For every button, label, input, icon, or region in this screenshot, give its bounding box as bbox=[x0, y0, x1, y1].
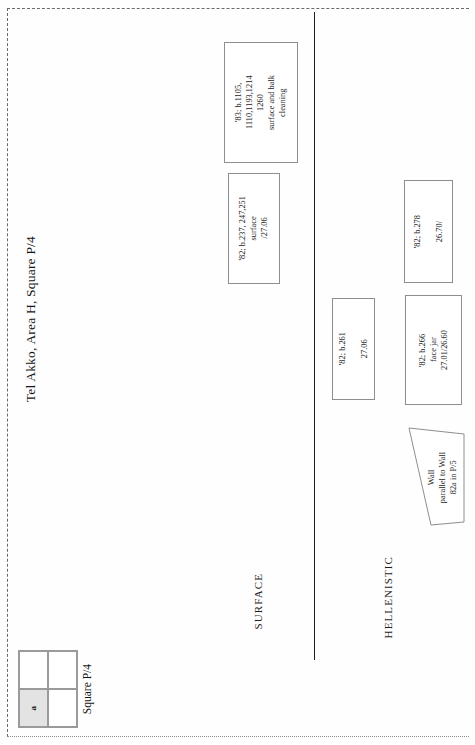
legend-cell-bottom-left[interactable]: a bbox=[19, 689, 48, 727]
locus-box-b1105[interactable]: '83; b.1105, 1110,1193,1214 1260 surface… bbox=[224, 42, 298, 163]
page-title: Tel Akko, Area H, Square P/4 bbox=[22, 236, 40, 406]
legend-cell-top-left[interactable] bbox=[19, 651, 48, 689]
legend-square-key: a Square P/4 bbox=[18, 650, 78, 728]
wall-shape-82a[interactable]: Wall parallel to Wall 82a in P/5 bbox=[401, 424, 465, 529]
legend-cell-bottom-right[interactable] bbox=[48, 689, 77, 727]
locus-box-b237[interactable]: '82; b.237, 247,251 surface /27.06 bbox=[228, 173, 280, 284]
phase-label-surface: SURFACE bbox=[251, 573, 266, 631]
page-edge-left bbox=[7, 8, 8, 737]
page-edge-bottom bbox=[7, 736, 469, 737]
legend-cell-top-right[interactable] bbox=[48, 651, 77, 689]
phase-label-hellenistic: HELLENISTIC bbox=[381, 556, 396, 640]
locus-box-b261[interactable]: '82; b.261 27.06 bbox=[332, 298, 375, 400]
phase-divider-line bbox=[314, 12, 315, 660]
locus-box-b266[interactable]: '82; b.266 face jar 27.01/26.60 bbox=[405, 295, 462, 405]
stratigraphic-diagram-page: Tel Akko, Area H, Square P/4 SURFACE HEL… bbox=[0, 0, 475, 745]
legend-caption: Square P/4 bbox=[80, 650, 95, 728]
legend-grid: a bbox=[18, 650, 78, 728]
locus-box-b278[interactable]: '82; b.278 26.70/ bbox=[404, 180, 453, 283]
page-edge-top bbox=[7, 8, 469, 9]
wall-label: Wall parallel to Wall 82a in P/5 bbox=[421, 432, 465, 524]
